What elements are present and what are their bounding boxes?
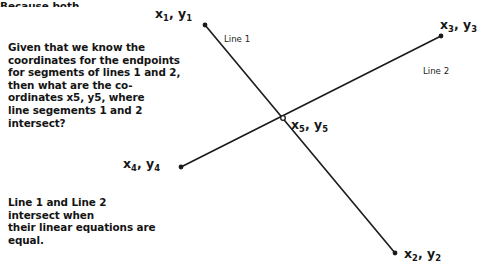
coord-xsub-x3y3: 3 [448,24,454,34]
coord-xsub-x5y5: 5 [299,124,305,134]
endpoint-dot-x2y2 [393,251,398,256]
coordinate-label-x2y2: x2, y2 [404,246,441,261]
line-segment-2 [181,36,441,167]
diagram-canvas: Given that we know the coordinates for t… [0,0,488,273]
coordinate-label-x1y1: x1, y1 [155,6,192,21]
endpoint-dot-x4y4 [179,165,184,170]
coord-x-x5y5: x [291,117,299,132]
coord-sep-x3y3: , y [454,17,471,32]
coord-sep-x5y5: , y [305,117,322,132]
coord-xsub-x2y2: 2 [412,253,418,263]
coord-x-x3y3: x [440,17,448,32]
coordinate-label-x5y5: x5, y5 [291,117,328,132]
endpoint-dot-x1y1 [203,23,208,28]
question-paragraph: Given that we know the coordinates for t… [8,41,198,129]
coord-ysub-x4y4: 4 [154,163,160,173]
line-segment-1 [205,25,395,253]
intersection-dot-x5y5 [281,116,286,121]
coord-sep-x4y4: , y [137,156,154,171]
coord-sep-x2y2: , y [418,246,435,261]
coordinate-label-x3y3: x3, y3 [440,17,477,32]
coord-x-x1y1: x [155,6,163,21]
coord-sep-x1y1: , y [169,6,186,21]
coord-xsub-x1y1: 1 [163,13,169,23]
coordinate-label-x4y4: x4, y4 [123,156,160,171]
coord-ysub-x5y5: 5 [322,124,328,134]
coord-x-x2y2: x [404,246,412,261]
coord-ysub-x3y3: 3 [471,24,477,34]
endpoint-dot-x3y3 [439,34,444,39]
explanation-paragraph: Line 1 and Line 2 intersect when their l… [8,196,198,246]
coord-ysub-x1y1: 1 [186,13,192,23]
line-2-label: Line 2 [423,66,449,76]
coord-ysub-x2y2: 2 [435,253,441,263]
coord-x-x4y4: x [123,156,131,171]
line-1-label: Line 1 [224,34,250,44]
coord-xsub-x4y4: 4 [131,163,137,173]
